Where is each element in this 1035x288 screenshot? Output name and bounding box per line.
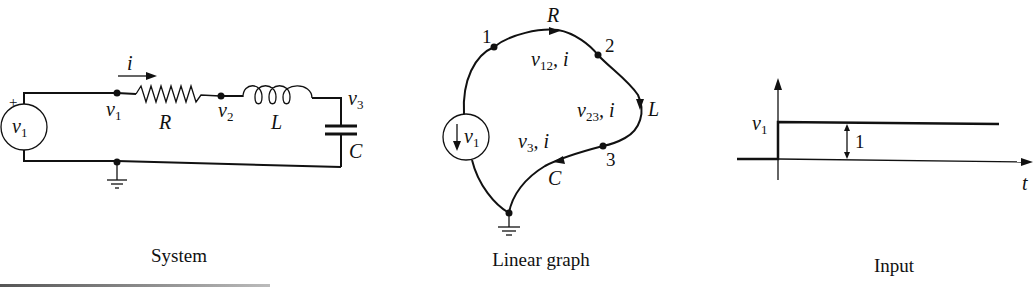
edge-C-label: C [548,167,562,189]
step-height-label: 1 [855,131,865,152]
graph-ground-icon [498,213,520,235]
diagram-canvas: + v1 v1 i R v2 L v3 C [0,0,1035,288]
graph-source-label: v1 [464,125,479,150]
current-arrow-icon [146,72,157,80]
inductor-label: L [270,111,282,133]
node-v1-label: v1 [106,98,121,123]
edge-L-arrow-icon [636,99,644,110]
x-axis [778,159,1024,162]
graph-node-3-label: 3 [606,149,616,170]
y-axis-arrow-icon [774,78,782,90]
step-signal [737,122,999,159]
resistor-icon [136,86,220,102]
edge-3-label: v3, i [518,130,549,155]
linear-graph-caption: Linear graph [492,249,590,270]
edge-R-label: R [546,4,559,26]
system-circuit: + v1 v1 i R v2 L v3 C [1,52,363,266]
input-plot: t v1 1 Input [737,78,1033,276]
y-axis-label: v1 [752,112,767,137]
x-axis-arrow-icon [1021,158,1033,166]
current-label: i [127,52,133,74]
source-arrow-icon [453,141,461,151]
capacitor-label: C [349,140,363,162]
edge-source-upper [464,47,494,114]
system-caption: System [151,245,207,266]
graph-node-1 [491,44,498,51]
plus-sign: + [9,94,17,110]
graph-node-2-label: 2 [605,35,615,56]
edge-R-arrow-icon [549,27,560,35]
graph-node-1-label: 1 [482,26,492,47]
x-axis-label: t [1022,172,1028,194]
node-v2-label: v2 [218,99,233,124]
edge-L-label: L [647,98,659,120]
edge-23-label: v23, i [577,99,614,124]
edge-C-arrow-icon [553,156,565,164]
input-caption: Input [874,255,915,276]
edge-12-label: v12, i [531,48,568,73]
inductor-icon [243,86,312,104]
edge-source-lower [472,160,509,213]
graph-node-2 [595,52,602,59]
source-label: v1 [12,115,27,140]
linear-graph: v1 R v12, i L v23, i C v3, i 1 2 3 [443,4,659,270]
ground-icon [107,162,127,188]
resistor-label: R [158,111,171,133]
node-v3-label: v3 [348,87,363,112]
page-edge-bar [0,284,270,287]
edge-R [494,30,598,55]
